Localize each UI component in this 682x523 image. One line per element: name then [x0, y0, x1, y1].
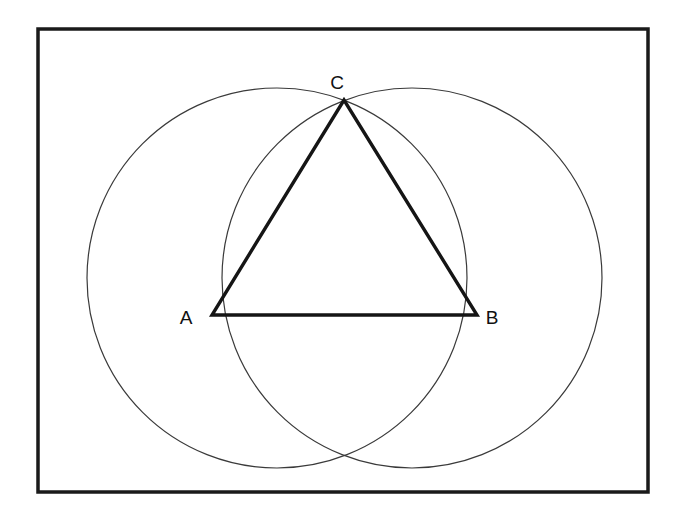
vertex-label-a: A — [180, 307, 193, 328]
figure-page: A B C — [0, 0, 682, 523]
vertex-label-b: B — [486, 307, 499, 328]
geometry-figure: A B C — [0, 0, 682, 523]
vertex-label-c: C — [330, 72, 344, 93]
